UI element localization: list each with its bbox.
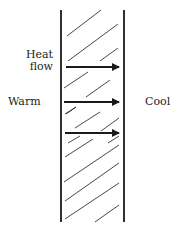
warm-side-label: Warm	[8, 96, 41, 108]
heat-flow-label-line2: flow	[26, 61, 53, 73]
wall-hatching	[64, 10, 119, 222]
heat-flow-arrows	[64, 67, 119, 133]
cool-side-label: Cool	[145, 96, 170, 108]
heat-flow-diagram: Heat flow Warm Cool	[0, 0, 177, 225]
heat-flow-label: Heat flow	[26, 49, 53, 73]
diagram-canvas	[0, 0, 177, 225]
